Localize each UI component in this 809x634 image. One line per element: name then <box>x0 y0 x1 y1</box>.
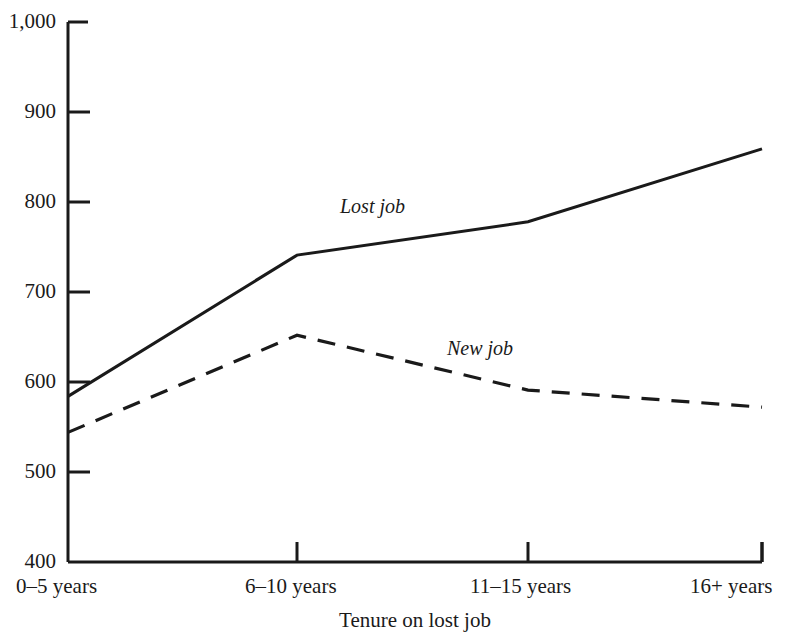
x-tick-label: 0–5 years <box>16 576 97 597</box>
axis-spines <box>68 22 762 562</box>
series-line-new-job <box>68 335 762 432</box>
x-tick-label: 11–15 years <box>470 576 571 597</box>
x-tick-label: 6–10 years <box>245 576 337 597</box>
y-tick-label: 1,000 <box>0 11 56 32</box>
chart-plot-area <box>0 0 809 634</box>
x-axis-ticks <box>297 542 762 562</box>
x-axis-title: Tenure on lost job <box>68 610 762 631</box>
y-tick-label: 800 <box>0 191 56 212</box>
y-tick-label: 700 <box>0 281 56 302</box>
line-chart: 4005006007008009001,000 0–5 years6–10 ye… <box>0 0 809 634</box>
series-label-lost-job: Lost job <box>340 196 405 216</box>
x-tick-label: 16+ years <box>690 576 772 597</box>
y-tick-label: 900 <box>0 101 56 122</box>
y-tick-label: 400 <box>0 551 56 572</box>
y-tick-label: 500 <box>0 461 56 482</box>
y-axis-ticks <box>68 112 90 472</box>
series-line-lost-job <box>68 149 762 397</box>
series-label-new-job: New job <box>447 338 513 358</box>
data-series-layer <box>68 149 762 433</box>
y-tick-label: 600 <box>0 371 56 392</box>
